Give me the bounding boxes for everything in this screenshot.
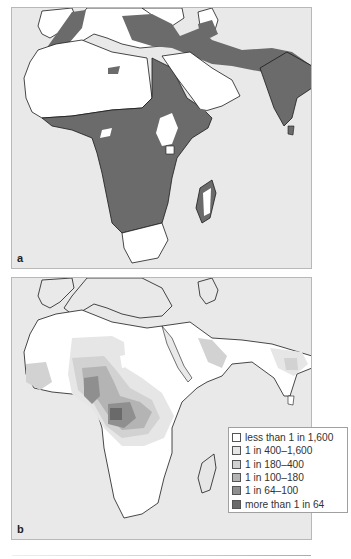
legend-swatch-3: [232, 473, 241, 482]
legend-label: more than 1 in 64: [245, 499, 324, 510]
legend-item: 1 in 400–1,600: [232, 444, 344, 457]
legend-item: more than 1 in 64: [232, 497, 344, 510]
map-legend: less than 1 in 1,600 1 in 400–1,600 1 in…: [228, 427, 348, 513]
panel-b-label: b: [17, 523, 24, 535]
legend-swatch-5: [232, 500, 241, 509]
legend-item: 1 in 64–100: [232, 484, 344, 497]
legend-item: 1 in 180–400: [232, 458, 344, 471]
legend-label: 1 in 400–1,600: [245, 445, 312, 456]
legend-label: 1 in 180–400: [245, 459, 304, 470]
legend-swatch-1: [232, 446, 241, 455]
legend-item: less than 1 in 1,600: [232, 431, 344, 444]
legend-swatch-4: [232, 486, 241, 495]
legend-item: 1 in 100–180: [232, 471, 344, 484]
legend-label: 1 in 64–100: [245, 485, 298, 496]
legend-label: less than 1 in 1,600: [245, 432, 333, 443]
legend-swatch-0: [232, 433, 241, 442]
legend-swatch-2: [232, 460, 241, 469]
legend-label: 1 in 100–180: [245, 472, 304, 483]
bottom-divider: [12, 555, 311, 556]
malaria-distribution-map: [12, 8, 312, 269]
panel-a-label: a: [17, 252, 23, 264]
map-panel-a: a: [11, 7, 312, 269]
